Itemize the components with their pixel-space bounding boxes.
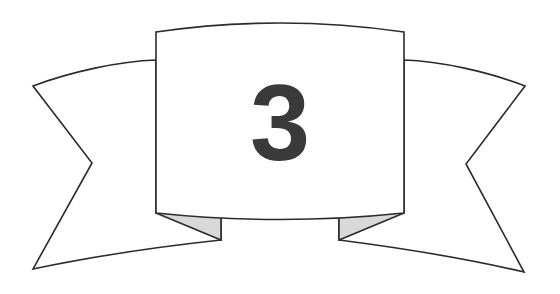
banner-ribbon-svg: 3	[0, 0, 560, 294]
banner-graphic-stage: 3	[0, 0, 560, 294]
banner-number: 3	[250, 62, 310, 183]
